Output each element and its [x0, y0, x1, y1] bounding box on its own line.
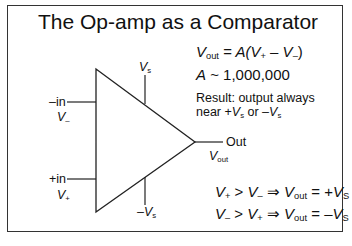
- rule-2: V– > V+ ⇒ Vout = –VS: [215, 205, 349, 223]
- noninverting-input-label: +in: [49, 172, 66, 186]
- vout-label: Vout: [209, 149, 228, 164]
- v-plus-label: V+: [57, 188, 70, 203]
- gain-equation: Vout = A(V+ – V–): [196, 43, 303, 61]
- gain-value: A ~ 1,000,000: [196, 66, 290, 83]
- vs-bottom-label: –Vs: [137, 205, 156, 220]
- output-label: Out: [226, 135, 246, 149]
- inverting-input-label: –in: [49, 95, 66, 109]
- v-minus-label: V–: [57, 110, 70, 125]
- vs-top-label: Vs: [139, 60, 151, 75]
- result-line-2: near +Vs or –Vs: [196, 105, 281, 120]
- rule-1: V+ > V– ⇒ Vout = +VS: [215, 183, 349, 201]
- result-line-1: Result: output always: [196, 91, 315, 105]
